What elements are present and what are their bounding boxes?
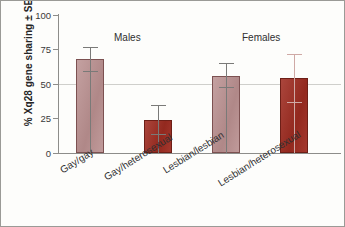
y-tick-0: 0 [21, 153, 51, 154]
error-bar-cap-bottom [83, 71, 98, 72]
y-tick-label-0: 0 [23, 149, 51, 159]
y-tick-50: 50 [21, 84, 51, 85]
y-tick-25: 25 [21, 118, 51, 119]
error-bar-cap-top [83, 47, 98, 48]
y-tick-100: 100 [21, 15, 51, 16]
y-tick-label-100: 100 [23, 11, 51, 21]
error-bar-stem [226, 63, 227, 153]
error-bar-cap-bottom [287, 102, 302, 103]
error-bar-cap-top [287, 54, 302, 55]
y-tick-75: 75 [21, 49, 51, 50]
y-tick-label-75: 75 [23, 45, 51, 55]
error-bar-cap-bottom [219, 87, 234, 88]
chart-figure: % Xq28 gene sharing ± SE 100 75 50 25 0 [0, 0, 345, 227]
error-bar-gay-gay [76, 47, 104, 153]
error-bar-cap-top [219, 63, 234, 64]
y-tick-label-25: 25 [23, 114, 51, 124]
group-label-females: Females [242, 32, 280, 43]
error-bar-cap-top [151, 105, 166, 106]
error-bar-stem [90, 47, 91, 153]
y-tick-label-50: 50 [23, 80, 51, 90]
group-label-males: Males [114, 32, 141, 43]
